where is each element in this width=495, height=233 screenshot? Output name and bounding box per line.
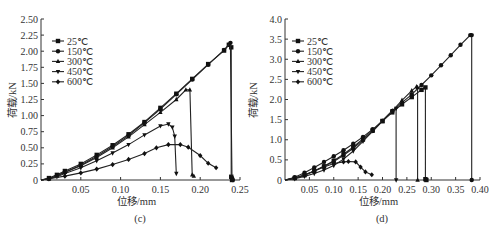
y-tick-label: 0.50 — [21, 142, 39, 153]
data-point-marker — [449, 53, 453, 57]
data-point-marker — [231, 178, 235, 182]
x-tick-label: 0.05 — [301, 184, 319, 195]
x-tick-label: 0.25 — [231, 184, 249, 195]
data-point-marker — [174, 92, 178, 96]
series-300c — [41, 87, 196, 180]
data-point-marker — [322, 160, 326, 164]
y-tick-label: 0.75 — [21, 126, 39, 137]
data-point-marker — [214, 165, 218, 170]
data-point-marker — [419, 88, 423, 92]
data-point-marker — [470, 178, 474, 182]
data-point-marker — [439, 63, 443, 67]
data-point-marker — [170, 125, 174, 129]
data-point-marker — [79, 170, 83, 175]
panel-label: (d) — [376, 213, 389, 225]
data-point-marker — [429, 73, 433, 77]
data-point-marker — [95, 166, 99, 171]
y-tick-label: 0 — [33, 175, 38, 186]
y-tick-label: 4.0 — [270, 14, 283, 25]
data-point-marker — [142, 151, 146, 156]
y-tick-label: 1.00 — [21, 110, 39, 121]
series-600c — [285, 159, 374, 181]
figure: 00.250.500.751.001.251.501.752.002.252.5… — [0, 0, 495, 233]
data-point-marker — [190, 77, 194, 81]
chart-panel-c: 00.250.500.751.001.251.501.752.002.252.5… — [7, 14, 249, 226]
series-25c — [285, 85, 429, 182]
series-300c — [285, 84, 420, 182]
y-tick-label: 0 — [277, 175, 282, 186]
legend-item: 600℃ — [52, 76, 93, 87]
data-point-marker — [410, 88, 414, 92]
x-tick-label: 0.25 — [398, 184, 416, 195]
data-point-marker — [470, 33, 474, 37]
panel-label: (c) — [134, 213, 146, 225]
y-tick-label: 3.5 — [270, 34, 283, 45]
square-marker-icon — [296, 39, 300, 43]
diamond-marker-icon — [56, 79, 60, 84]
y-tick-label: 2.5 — [270, 74, 283, 85]
data-point-marker — [110, 162, 114, 167]
circle-marker-icon — [296, 49, 300, 53]
y-tick-label: 1.75 — [21, 62, 39, 73]
y-axis-label: 荷载/kN — [7, 82, 18, 118]
x-tick-label: 0.40 — [471, 184, 489, 195]
series-line — [285, 87, 418, 180]
y-tick-label: 2.00 — [21, 46, 39, 57]
data-point-marker — [186, 145, 190, 150]
x-tick-label: 0.15 — [152, 184, 170, 195]
x-tick-label: 0.30 — [423, 184, 441, 195]
data-point-marker — [370, 172, 374, 177]
series-line — [285, 87, 426, 180]
square-marker-icon — [56, 39, 60, 43]
diamond-marker-icon — [296, 79, 300, 84]
x-axis-label: 位移/mm — [117, 195, 156, 207]
data-point-marker — [178, 142, 182, 147]
data-point-marker — [423, 85, 427, 89]
x-tick-label: 0.10 — [112, 184, 130, 195]
y-tick-label: 1.50 — [21, 78, 39, 89]
chart-panel-d: 00.51.01.52.02.53.03.54.00.050.100.150.2… — [248, 14, 489, 226]
data-point-marker — [351, 149, 355, 153]
y-tick-label: 0.25 — [21, 158, 39, 169]
data-point-marker — [154, 145, 158, 150]
data-point-marker — [173, 135, 177, 139]
y-tick-label: 2.50 — [21, 14, 39, 25]
data-point-marker — [228, 41, 232, 45]
data-point-marker — [424, 178, 428, 182]
data-point-marker — [222, 48, 226, 52]
legend-item: 600℃ — [292, 76, 333, 87]
x-tick-label: 0.35 — [447, 184, 465, 195]
x-tick-label: 0.10 — [325, 184, 343, 195]
legend-label: 600℃ — [307, 76, 333, 87]
series-450c — [285, 107, 398, 183]
y-axis-label: 荷载/kN — [248, 82, 259, 118]
x-tick-label: 0.20 — [374, 184, 392, 195]
series-line — [41, 124, 176, 180]
x-tick-label: 0.15 — [349, 184, 367, 195]
data-point-marker — [174, 172, 178, 176]
data-point-marker — [229, 45, 233, 49]
y-tick-label: 2.25 — [21, 30, 39, 41]
series-line — [285, 108, 396, 180]
data-point-marker — [341, 148, 345, 152]
data-point-marker — [206, 63, 210, 67]
x-tick-label: 0.05 — [72, 184, 90, 195]
data-point-marker — [126, 157, 130, 162]
legend-label: 600℃ — [67, 76, 93, 87]
series-line — [41, 90, 194, 180]
data-point-marker — [351, 142, 355, 146]
series-line — [41, 145, 216, 180]
data-point-marker — [346, 159, 350, 164]
data-point-marker — [419, 83, 423, 87]
data-point-marker — [458, 43, 462, 47]
data-point-marker — [166, 142, 170, 147]
data-point-marker — [332, 154, 336, 158]
x-axis-label: 位移/mm — [359, 195, 398, 207]
y-tick-label: 1.25 — [21, 94, 39, 105]
y-tick-label: 0.5 — [270, 154, 283, 165]
x-tick-label: 0.20 — [191, 184, 209, 195]
y-tick-label: 2.0 — [270, 94, 283, 105]
circle-marker-icon — [56, 49, 60, 53]
y-tick-label: 1.0 — [270, 134, 283, 145]
y-tick-label: 3.0 — [270, 54, 283, 65]
